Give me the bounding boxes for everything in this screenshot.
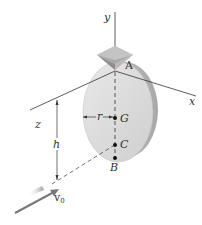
height-label: h bbox=[53, 138, 60, 151]
x-axis-label: x bbox=[189, 95, 196, 108]
z-axis-label: z bbox=[34, 118, 41, 131]
disk-impact-diagram: y x z A r G C B bbox=[0, 0, 202, 225]
height-dimension: h bbox=[53, 100, 60, 180]
point-C-label: C bbox=[120, 138, 129, 151]
point-C bbox=[113, 143, 117, 147]
disk-face bbox=[83, 62, 153, 162]
projectile bbox=[28, 186, 44, 196]
point-B-label: B bbox=[109, 161, 118, 174]
point-A-label: A bbox=[124, 59, 134, 72]
velocity-label: v0 bbox=[53, 191, 65, 205]
point-G-label: G bbox=[120, 112, 129, 125]
point-B bbox=[113, 156, 117, 160]
radius-label: r bbox=[97, 110, 103, 123]
point-G bbox=[113, 116, 117, 120]
y-axis: y bbox=[103, 11, 115, 50]
y-axis-label: y bbox=[103, 11, 111, 24]
